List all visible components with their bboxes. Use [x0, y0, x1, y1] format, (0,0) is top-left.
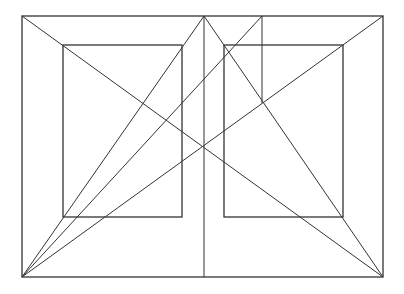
bl-to-third-top-line	[22, 16, 262, 277]
canons-of-page-construction-diagram	[0, 0, 404, 294]
diagram-canvas	[0, 0, 404, 294]
spine-top-to-br-line	[204, 16, 383, 277]
left-text-block	[63, 45, 182, 217]
bl-to-spine-top-line	[22, 16, 204, 277]
